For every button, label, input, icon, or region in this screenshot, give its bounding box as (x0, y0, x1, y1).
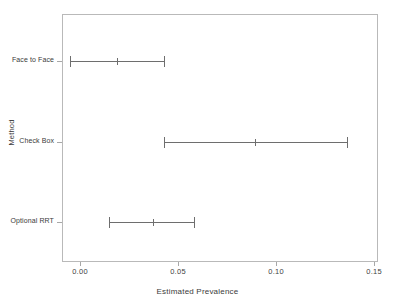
x-axis-title: Estimated Prevalence (0, 287, 395, 296)
error-bar-cap-upper (194, 217, 195, 228)
y-tick-label: Check Box (0, 137, 54, 144)
error-bar-estimate-marker (255, 139, 256, 146)
x-tick-label: 0.00 (60, 267, 100, 276)
chart-figure: Method Estimated Prevalence 0.000.050.10… (0, 0, 395, 308)
error-bar-cap-upper (347, 137, 348, 148)
x-tick-label: 0.10 (256, 267, 296, 276)
error-bar-estimate-marker (117, 58, 118, 65)
error-bar-cap-upper (164, 56, 165, 67)
x-tick-mark (276, 262, 277, 266)
y-tick-mark (57, 222, 62, 223)
y-tick-label: Optional RRT (0, 217, 54, 224)
x-tick-label: 0.05 (158, 267, 198, 276)
y-tick-mark (57, 61, 62, 62)
x-tick-mark (178, 262, 179, 266)
error-bar-cap-lower (70, 56, 71, 67)
y-tick-mark (57, 142, 62, 143)
x-tick-mark (80, 262, 81, 266)
y-tick-label: Face to Face (0, 56, 54, 63)
error-bar-estimate-marker (153, 219, 154, 226)
error-bar-cap-lower (109, 217, 110, 228)
error-bar-cap-lower (164, 137, 165, 148)
x-tick-mark (374, 262, 375, 266)
x-tick-label: 0.15 (354, 267, 394, 276)
y-axis-title: Method (7, 103, 16, 163)
